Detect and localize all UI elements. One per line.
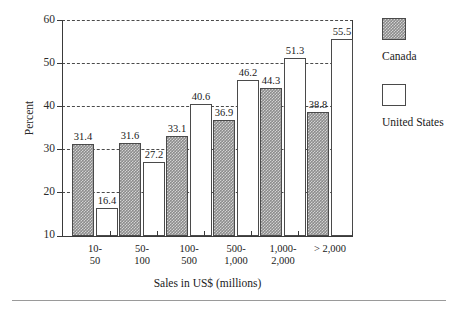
bar-value-us-5: 55.5 xyxy=(325,27,359,38)
legend-item-united-states: United States xyxy=(382,84,458,128)
x-category-label-5: > 2,000 xyxy=(301,243,359,255)
x-tick-mark xyxy=(110,231,111,237)
y-tick-label-10: 10 xyxy=(15,229,55,241)
bar-value-us-2: 40.6 xyxy=(184,92,218,103)
legend-item-canada: Canada xyxy=(382,18,458,62)
bar-canada-0 xyxy=(72,144,94,236)
x-tick-mark xyxy=(62,231,63,237)
legend-swatch-canada xyxy=(382,18,406,40)
bar-value-us-0: 16.4 xyxy=(90,196,124,207)
x-axis-line xyxy=(62,236,353,237)
bar-value-us-4: 51.3 xyxy=(278,46,312,57)
x-tick-mark xyxy=(298,231,299,237)
footer-rule xyxy=(12,300,446,301)
x-tick-mark xyxy=(251,231,252,237)
y-tick-label-60: 60 xyxy=(15,14,55,26)
gridline-50 xyxy=(62,63,353,64)
y-axis-line xyxy=(62,20,63,237)
bar-canada-3 xyxy=(213,120,235,236)
y-tick-label-30: 30 xyxy=(15,143,55,155)
x-axis-title: Sales in US$ (millions) xyxy=(62,277,353,289)
legend-swatch-united-states xyxy=(382,84,406,106)
y-axis-labels: 60 50 40 30 20 10 xyxy=(10,0,55,260)
bar-canada-5 xyxy=(307,112,329,236)
bar-us-0 xyxy=(96,208,118,236)
bar-us-1 xyxy=(143,162,165,236)
bar-value-canada-1: 31.6 xyxy=(113,131,147,142)
y-tick-label-40: 40 xyxy=(15,100,55,112)
x-category-line1: > 2,000 xyxy=(301,243,359,255)
chart-legend: Canada United States xyxy=(382,18,458,128)
bar-us-3 xyxy=(237,80,259,236)
x-category-line2: 2,000 xyxy=(254,255,312,267)
legend-label-united-states: United States xyxy=(382,116,458,128)
bar-value-canada-0: 31.4 xyxy=(66,132,100,143)
x-tick-mark xyxy=(352,231,353,237)
bar-value-canada-2: 33.1 xyxy=(160,124,194,135)
bar-value-us-1: 27.2 xyxy=(137,150,171,161)
x-tick-mark xyxy=(157,231,158,237)
bar-value-canada-3: 36.9 xyxy=(207,108,241,119)
chart-figure: Percent 60 50 40 30 20 10 31.4 16.4 31.6… xyxy=(0,0,458,314)
gridline-60 xyxy=(62,20,353,21)
y-tick-label-50: 50 xyxy=(15,57,55,69)
legend-label-canada: Canada xyxy=(382,50,458,62)
bar-canada-4 xyxy=(260,88,282,236)
y-tick-label-20: 20 xyxy=(15,186,55,198)
x-tick-mark xyxy=(204,231,205,237)
bar-value-canada-4: 44.3 xyxy=(254,76,288,87)
bar-value-canada-5: 38.8 xyxy=(301,100,335,111)
bar-us-5 xyxy=(331,39,353,236)
